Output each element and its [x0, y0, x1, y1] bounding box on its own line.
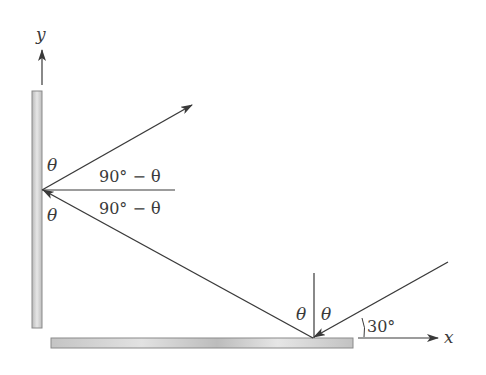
theta-label-lower-left: θ [47, 205, 57, 225]
theta-label-bottom-left: θ [296, 304, 306, 324]
complement-label-lower: 90° − θ [99, 199, 161, 218]
y-axis-label: y [35, 24, 46, 44]
incidence-angle-label: 30° [367, 317, 395, 336]
x-axis-label: x [444, 327, 454, 347]
reflection-diagram: y x θ θ 90° − θ 90° − θ θ θ 30° [0, 0, 486, 375]
theta-label-bottom-right: θ [321, 304, 331, 324]
y-axis: y [35, 24, 46, 85]
vertical-mirror [32, 91, 42, 328]
horizontal-mirror [51, 338, 353, 348]
theta-label-upper-left: θ [47, 155, 57, 175]
complement-label-upper: 90° − θ [99, 167, 161, 186]
angle-arc-30 [362, 318, 365, 337]
reflected-ray-1 [43, 190, 313, 338]
